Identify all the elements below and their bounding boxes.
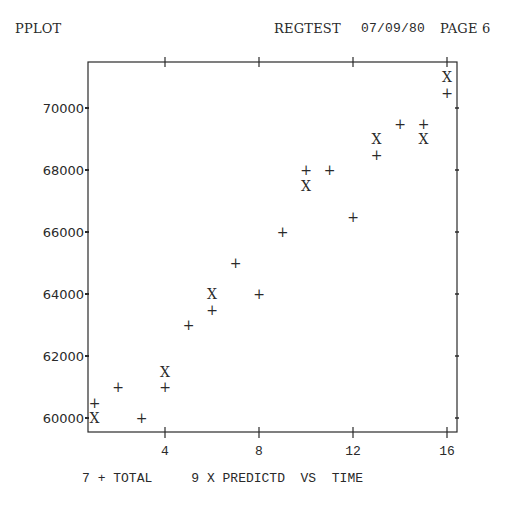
x-tick-label: 12	[345, 444, 361, 459]
y-tick-label: 60000	[43, 411, 84, 426]
x-tick-label: 8	[255, 444, 263, 459]
scatter-plot: 481216 600006200064000660006800070000 ++…	[0, 0, 511, 509]
legend-vs: VS	[301, 471, 317, 486]
x-marker-predictd: X	[372, 131, 382, 147]
legend-count-predictd: 9	[191, 471, 199, 486]
plus-marker-total: +	[277, 224, 289, 240]
x-marker-predictd: X	[301, 178, 311, 194]
y-tick-label: 68000	[43, 163, 84, 178]
plus-marker-total: +	[136, 410, 148, 426]
data-points: ++++++++++++++++XXXXXXX	[89, 69, 453, 426]
x-marker-predictd: X	[419, 131, 429, 147]
y-tick-label: 64000	[43, 287, 84, 302]
x-axis: 481216	[161, 57, 455, 459]
plus-marker-total: +	[112, 379, 124, 395]
legend-label-total: TOTAL	[113, 471, 152, 486]
x-marker-predictd: X	[160, 364, 170, 380]
plus-marker-total: +	[230, 255, 242, 271]
legend-x-variable: TIME	[332, 471, 363, 486]
plus-marker-total: +	[89, 395, 101, 411]
y-tick-label: 70000	[43, 101, 84, 116]
legend-symbol-total: +	[98, 471, 106, 486]
x-marker-predictd: X	[207, 286, 217, 302]
plus-marker-total: +	[300, 162, 312, 178]
x-tick-label: 4	[161, 444, 169, 459]
plus-marker-total: +	[159, 379, 171, 395]
y-tick-label: 66000	[43, 225, 84, 240]
legend-label-predictd: PREDICTD	[223, 471, 285, 486]
plus-marker-total: +	[183, 317, 195, 333]
y-tick-label: 62000	[43, 349, 84, 364]
plus-marker-total: +	[394, 116, 406, 132]
y-axis: 600006200064000660006800070000	[43, 101, 459, 426]
plus-marker-total: +	[371, 147, 383, 163]
legend-symbol-predictd: X	[207, 471, 215, 486]
x-tick-label: 16	[439, 444, 455, 459]
legend: 7 + TOTAL 9 X PREDICTD VS TIME	[82, 471, 363, 486]
plus-marker-total: +	[253, 286, 265, 302]
plus-marker-total: +	[206, 302, 218, 318]
plus-marker-total: +	[324, 162, 336, 178]
plus-marker-total: +	[441, 85, 453, 101]
x-marker-predictd: X	[442, 69, 452, 85]
legend-count-total: 7	[82, 471, 90, 486]
plus-marker-total: +	[418, 116, 430, 132]
x-marker-predictd: X	[90, 410, 100, 426]
plus-marker-total: +	[347, 209, 359, 225]
